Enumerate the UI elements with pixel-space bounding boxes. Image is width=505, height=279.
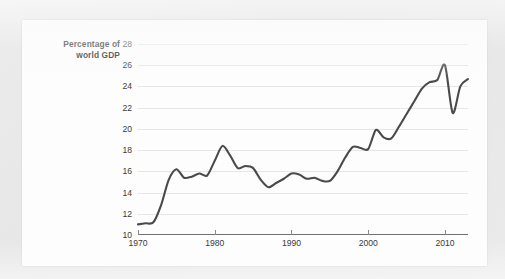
y-axis-tick-label: 18 <box>122 146 132 155</box>
y-axis-title: Percentage of world GDP <box>30 39 120 60</box>
x-axis-tick-label: 1980 <box>205 239 224 248</box>
series-line-path <box>138 64 468 224</box>
y-axis-title-line-2: world GDP <box>30 50 120 61</box>
series-line-chart <box>138 44 468 235</box>
y-axis-tick-label: 26 <box>122 61 132 70</box>
y-axis-tick-label: 14 <box>122 188 132 197</box>
plot-area: 10121416182022242628 1970198019902000201… <box>138 44 468 235</box>
y-axis-tick-label: 20 <box>122 125 132 134</box>
x-axis-tick-label: 1970 <box>128 239 147 248</box>
figure-card: Percentage of world GDP 1012141618202224… <box>22 20 487 266</box>
x-axis-tick-label: 2000 <box>359 239 378 248</box>
y-axis-tick-label: 24 <box>122 82 132 91</box>
y-axis-title-line-1: Percentage of <box>30 39 120 50</box>
x-axis-tick-label: 2010 <box>435 239 454 248</box>
y-axis-tick-label: 16 <box>122 167 132 176</box>
y-axis-tick-label: 28 <box>122 40 132 49</box>
y-axis-tick-label: 12 <box>122 209 132 218</box>
page-background: Percentage of world GDP 1012141618202224… <box>0 0 505 279</box>
y-axis-tick-label: 22 <box>122 103 132 112</box>
x-axis-tick-label: 1990 <box>282 239 301 248</box>
